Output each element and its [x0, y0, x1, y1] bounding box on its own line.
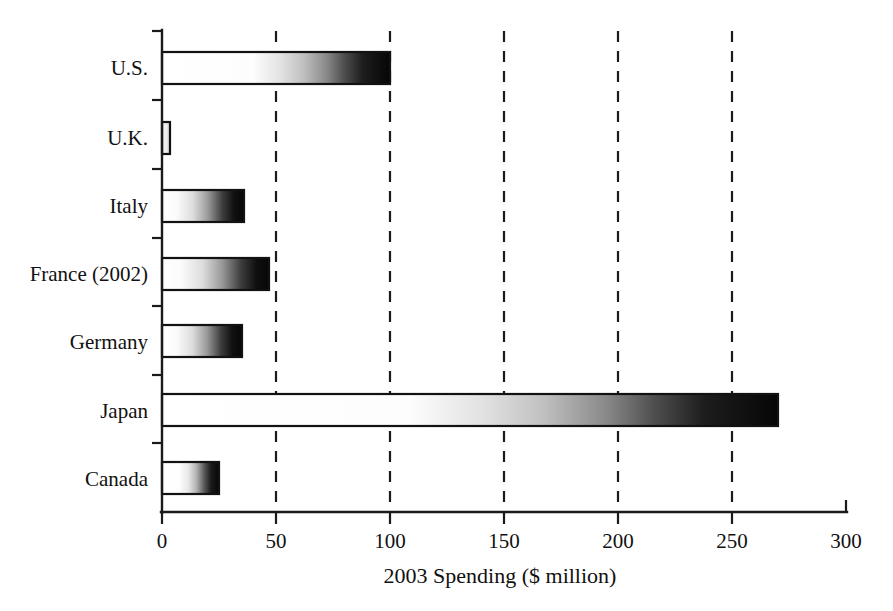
- bar-japan[interactable]: [162, 394, 778, 426]
- category-label-italy: Italy: [110, 194, 149, 218]
- category-label-us: U.S.: [111, 56, 148, 80]
- bar-chart: U.S. U.K. Italy France (2002) Germany Ja…: [0, 0, 893, 611]
- chart-background: [0, 0, 893, 611]
- x-tick-label-100: 100: [374, 529, 406, 553]
- category-label-france: France (2002): [30, 262, 148, 286]
- x-tick-label-0: 0: [157, 529, 168, 553]
- x-tick-label-250: 250: [716, 529, 748, 553]
- bar-canada[interactable]: [162, 462, 219, 494]
- chart-figure: U.S. U.K. Italy France (2002) Germany Ja…: [0, 0, 893, 611]
- x-tick-label-150: 150: [488, 529, 520, 553]
- bar-us[interactable]: [162, 52, 390, 84]
- category-label-germany: Germany: [70, 330, 149, 354]
- x-tick-label-300: 300: [830, 529, 862, 553]
- x-axis-title: 2003 Spending ($ million): [384, 563, 617, 588]
- bar-germany[interactable]: [162, 325, 242, 357]
- bar-france[interactable]: [162, 258, 269, 290]
- category-label-uk: U.K.: [107, 126, 148, 150]
- bar-italy[interactable]: [162, 190, 244, 222]
- x-tick-label-50: 50: [266, 529, 287, 553]
- category-label-canada: Canada: [85, 467, 149, 491]
- category-label-japan: Japan: [100, 399, 148, 423]
- x-tick-label-200: 200: [602, 529, 634, 553]
